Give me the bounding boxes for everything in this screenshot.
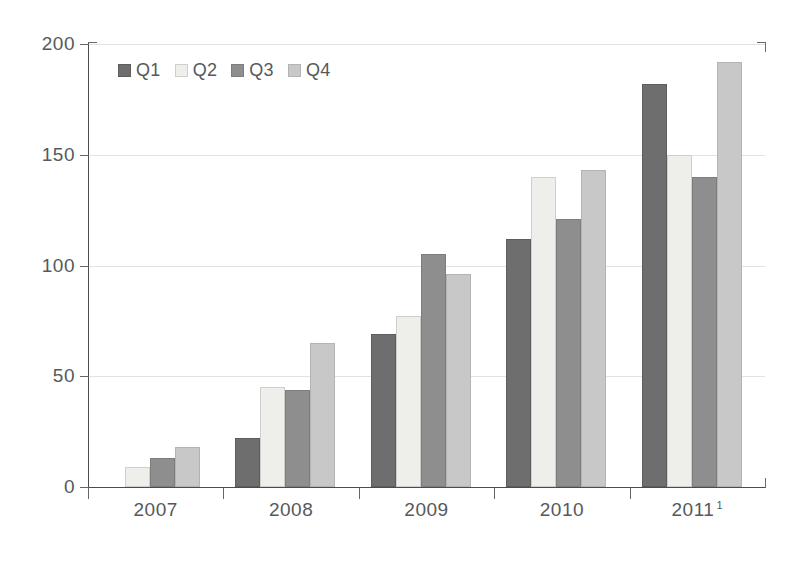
y-tick-mark xyxy=(80,44,89,45)
bar-2010-Q1 xyxy=(506,239,531,487)
bar-2008-Q4 xyxy=(310,343,335,487)
legend-swatch-icon xyxy=(231,64,244,77)
y-tick-label-wrap: 0 xyxy=(0,477,75,497)
bar-2008-Q2 xyxy=(260,387,285,487)
bar-2007-Q3 xyxy=(150,458,175,487)
y-axis-top-cap xyxy=(88,42,97,43)
legend-swatch-icon xyxy=(118,64,131,77)
bar-2011-Q3 xyxy=(692,177,717,487)
bar-2008-Q3 xyxy=(285,390,310,487)
y-tick-label-wrap: 150 xyxy=(0,145,75,165)
x-tick-label-2011: 20111 xyxy=(627,500,767,519)
y-tick-label-wrap: 100 xyxy=(0,256,75,276)
legend-item-Q2: Q2 xyxy=(175,61,218,79)
y-tick-label: 0 xyxy=(15,477,75,496)
gridline xyxy=(88,44,765,45)
legend-label: Q2 xyxy=(193,61,218,79)
x-tick-mark xyxy=(630,488,631,499)
legend-swatch-icon xyxy=(175,64,188,77)
legend-item-Q3: Q3 xyxy=(231,61,274,79)
x-tick-mark xyxy=(359,488,360,499)
bar-2009-Q3 xyxy=(421,254,446,487)
bar-2010-Q4 xyxy=(581,170,606,487)
y-tick-label: 200 xyxy=(15,34,75,53)
plot-right-edge-top xyxy=(765,42,766,52)
bar-chart: 200150100500 200720082009201020111 Q1Q2Q… xyxy=(0,0,795,572)
legend: Q1Q2Q3Q4 xyxy=(118,61,331,79)
y-tick-mark xyxy=(80,155,89,156)
bar-2009-Q1 xyxy=(371,334,396,487)
bar-2008-Q1 xyxy=(235,438,260,487)
x-tick-mark xyxy=(494,488,495,499)
y-tick-label: 150 xyxy=(15,145,75,164)
x-tick-footnote-marker: 1 xyxy=(716,499,723,511)
x-tick-label-2007: 2007 xyxy=(86,500,226,519)
bar-2011-Q2 xyxy=(667,155,692,487)
bar-2009-Q2 xyxy=(396,316,421,487)
bar-2007-Q2 xyxy=(125,467,150,487)
legend-swatch-icon xyxy=(288,64,301,77)
y-tick-mark xyxy=(80,266,89,267)
bar-2010-Q3 xyxy=(556,219,581,487)
x-tick-label-2009: 2009 xyxy=(357,500,497,519)
bar-2011-Q4 xyxy=(717,62,742,487)
legend-item-Q1: Q1 xyxy=(118,61,161,79)
y-tick-mark xyxy=(80,376,89,377)
plot-area xyxy=(88,44,765,487)
bar-2009-Q4 xyxy=(446,274,471,487)
y-tick-label: 50 xyxy=(15,366,75,385)
plot-right-edge-bottom xyxy=(765,478,766,488)
x-tick-mark xyxy=(223,488,224,499)
legend-label: Q3 xyxy=(249,61,274,79)
bar-2010-Q2 xyxy=(531,177,556,487)
bar-2007-Q4 xyxy=(175,447,200,487)
x-axis-line xyxy=(87,487,766,488)
y-tick-label: 100 xyxy=(15,256,75,275)
bar-2011-Q1 xyxy=(642,84,667,487)
y-tick-label-wrap: 50 xyxy=(0,366,75,386)
x-tick-mark xyxy=(88,488,89,499)
x-tick-label-2008: 2008 xyxy=(221,500,361,519)
legend-label: Q4 xyxy=(306,61,331,79)
legend-label: Q1 xyxy=(136,61,161,79)
y-tick-label-wrap: 200 xyxy=(0,34,75,54)
legend-item-Q4: Q4 xyxy=(288,61,331,79)
x-tick-label-2010: 2010 xyxy=(492,500,632,519)
